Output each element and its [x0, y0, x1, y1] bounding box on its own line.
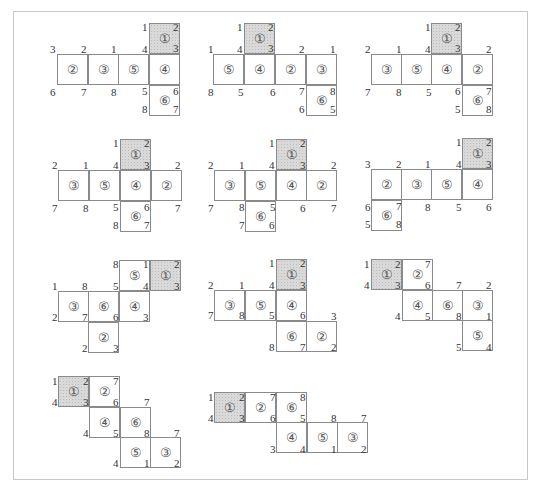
vertex-label: 7	[175, 203, 181, 214]
vertex-label: 2	[144, 138, 150, 149]
vertex-label: 1	[269, 138, 275, 149]
vertex-label: 3	[239, 413, 245, 424]
net-face-square: ②	[57, 54, 88, 85]
vertex-label: 1	[239, 160, 245, 171]
vertex-label: 8	[208, 87, 214, 98]
vertex-label: 8	[113, 259, 119, 270]
vertex-label: 8	[239, 310, 245, 321]
vertex-label: 7	[239, 220, 245, 231]
vertex-label: 7	[113, 376, 119, 387]
face-number: ⑤	[432, 170, 461, 199]
vertex-label: 2	[395, 259, 401, 270]
vertex-label: 1	[237, 22, 243, 33]
vertex-label: 7	[52, 203, 58, 214]
vertex-label: 5	[113, 281, 119, 292]
vertex-label: 8	[82, 281, 88, 292]
vertex-label: 5	[456, 342, 462, 353]
vertex-label: 5	[142, 86, 148, 97]
vertex-label: 5	[330, 104, 336, 115]
vertex-label: 7	[361, 413, 367, 424]
vertex-label: 6	[425, 280, 431, 291]
vertex-label: 3	[300, 160, 306, 171]
face-number: ②	[58, 55, 87, 84]
vertex-label: 8	[486, 104, 492, 115]
vertex-label: 6	[173, 86, 179, 97]
face-number: ④	[121, 171, 150, 200]
vertex-label: 2	[52, 160, 58, 171]
net-face-square: ④	[120, 170, 151, 201]
vertex-label: 1	[113, 138, 119, 149]
net-face-square: ⑤	[431, 169, 462, 200]
vertex-label: 8	[300, 392, 306, 403]
vertex-label: 7	[208, 310, 214, 321]
vertex-label: 5	[425, 311, 431, 322]
vertex-label: 7	[270, 392, 276, 403]
vertex-label: 1	[52, 376, 58, 387]
net-face-square: ⑤	[245, 170, 276, 201]
net-face-square: ②	[371, 169, 402, 200]
vertex-label: 4	[269, 280, 275, 291]
vertex-label: 6	[300, 310, 306, 321]
vertex-label: 2	[455, 22, 461, 33]
vertex-label: 7	[173, 104, 179, 115]
vertex-label: 1	[239, 280, 245, 291]
vertex-label: 7	[299, 86, 305, 97]
vertex-label: 6	[270, 413, 276, 424]
vertex-label: 8	[396, 219, 402, 230]
vertex-label: 3	[486, 159, 492, 170]
net-face-square: ③	[401, 169, 432, 200]
vertex-label: 1	[425, 22, 431, 33]
face-number: ③	[215, 171, 244, 200]
vertex-label: 7	[144, 220, 150, 231]
net-face-square: ③	[306, 54, 337, 85]
net-face-square: ⑤	[118, 54, 149, 85]
vertex-label: 2	[486, 44, 492, 55]
vertex-label: 5	[269, 310, 275, 321]
vertex-label: 2	[300, 138, 306, 149]
face-number: ③	[402, 170, 431, 199]
vertex-label: 8	[113, 220, 119, 231]
vertex-label: 7	[486, 86, 492, 97]
net-face-square: ④	[276, 170, 307, 201]
vertex-label: 1	[208, 44, 214, 55]
vertex-label: 1	[364, 259, 370, 270]
vertex-label: 5	[300, 413, 306, 424]
vertex-label: 6	[113, 312, 119, 323]
vertex-label: 8	[144, 428, 150, 439]
vertex-label: 1	[456, 137, 462, 148]
vertex-label: 3	[395, 280, 401, 291]
face-number: ②	[152, 171, 181, 200]
vertex-label: 4	[143, 281, 149, 292]
net-face-square: ④	[462, 169, 493, 200]
face-number: ⑤	[214, 55, 243, 84]
face-number: ④	[432, 55, 461, 84]
vertex-label: 4	[269, 160, 275, 171]
net-face-square: ②	[306, 170, 337, 201]
vertex-label: 1	[111, 44, 117, 55]
vertex-label: 8	[331, 413, 337, 424]
vertex-label: 1	[52, 281, 58, 292]
vertex-label: 7	[174, 428, 180, 439]
vertex-label: 7	[82, 312, 88, 323]
vertex-label: 2	[361, 444, 367, 455]
vertex-label: 4	[83, 428, 89, 439]
vertex-label: 1	[83, 160, 89, 171]
vertex-label: 1	[269, 258, 275, 269]
vertex-label: 4	[425, 44, 431, 55]
vertex-label: 7	[365, 87, 371, 98]
vertex-label: 2	[82, 343, 88, 354]
vertex-label: 6	[113, 397, 119, 408]
net-face-square: ⑤	[213, 54, 244, 85]
vertex-label: 4	[456, 159, 462, 170]
vertex-label: 3	[143, 312, 149, 323]
vertex-label: 2	[174, 259, 180, 270]
net-face-square: ③	[371, 54, 402, 85]
vertex-label: 2	[173, 22, 179, 33]
net-face-square: ②	[275, 54, 306, 85]
face-number: ②	[463, 55, 492, 84]
vertex-label: 7	[396, 201, 402, 212]
vertex-label: 7	[331, 203, 337, 214]
vertex-label: 1	[330, 44, 336, 55]
net-face-square: ④	[149, 54, 180, 85]
net-face-square: ⑤	[401, 54, 432, 85]
